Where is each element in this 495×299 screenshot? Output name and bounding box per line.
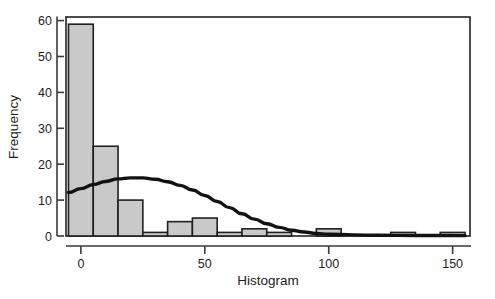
- histogram-bar: [93, 146, 118, 236]
- histogram-bar: [192, 218, 217, 236]
- histogram-bar: [168, 222, 193, 236]
- x-axis-tick-label: 150: [442, 257, 463, 271]
- histogram-bar: [118, 200, 143, 236]
- bars-layer: [68, 24, 465, 236]
- y-axis-tick-label: 20: [38, 158, 52, 172]
- y-axis-tick-label: 60: [38, 14, 52, 28]
- y-axis-tick-label: 40: [38, 86, 52, 100]
- histogram-bar: [143, 232, 168, 236]
- x-axis: 050100150: [66, 246, 471, 271]
- x-axis-title: Histogram: [237, 273, 299, 288]
- y-axis-tick-label: 0: [45, 230, 52, 244]
- histogram-figure: 0102030405060 050100150 Frequency Histog…: [0, 0, 495, 299]
- y-axis-tick-label: 30: [38, 122, 52, 136]
- histogram-bar: [242, 229, 267, 236]
- chart-canvas: 0102030405060 050100150 Frequency Histog…: [0, 0, 495, 299]
- y-axis: 0102030405060: [38, 14, 64, 243]
- histogram-bar: [217, 232, 242, 236]
- y-axis-title: Frequency: [6, 95, 21, 159]
- y-axis-tick-label: 10: [38, 194, 52, 208]
- x-axis-tick-label: 50: [198, 257, 212, 271]
- histogram-bar: [68, 24, 93, 236]
- histogram-bar: [267, 232, 292, 236]
- x-axis-tick-label: 0: [77, 257, 84, 271]
- x-axis-tick-label: 100: [318, 257, 339, 271]
- y-axis-tick-label: 50: [38, 50, 52, 64]
